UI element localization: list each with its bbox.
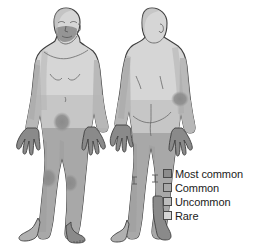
anterior-left-hand bbox=[17, 128, 40, 155]
legend-item-rare: Rare bbox=[163, 209, 255, 222]
legend-swatch-rare bbox=[163, 211, 172, 220]
legend-item-uncommon: Uncommon bbox=[163, 195, 255, 208]
anterior-right-knee-patch bbox=[62, 174, 78, 192]
legend-label-uncommon: Uncommon bbox=[175, 196, 230, 208]
legend-item-most-common: Most common bbox=[163, 167, 255, 180]
legend-swatch-uncommon bbox=[163, 197, 172, 206]
anterior-groin-patch bbox=[53, 112, 71, 132]
posterior-left-hand bbox=[110, 125, 133, 152]
posterior-leg-left-shadow bbox=[129, 142, 137, 232]
anterior-left-knee-patch bbox=[39, 168, 57, 188]
anterior-figure bbox=[17, 8, 115, 243]
anterior-left-foot bbox=[19, 218, 40, 241]
legend-label-rare: Rare bbox=[175, 210, 198, 222]
legend: Most common Common Uncommon Rare bbox=[163, 167, 255, 222]
legend-item-common: Common bbox=[163, 181, 255, 194]
legend-label-common: Common bbox=[175, 182, 219, 194]
posterior-elbow-patch bbox=[171, 91, 189, 107]
legend-label-most-common: Most common bbox=[175, 168, 243, 180]
posterior-left-foot bbox=[111, 220, 129, 242]
legend-swatch-common bbox=[163, 183, 172, 192]
legend-swatch-most-common bbox=[163, 169, 172, 178]
